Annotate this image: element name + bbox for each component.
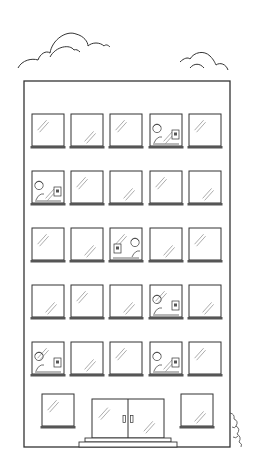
window: [109, 285, 144, 320]
window: [70, 342, 105, 377]
window: [109, 171, 144, 206]
window-occupied: [149, 342, 184, 377]
building-illustration: [0, 0, 255, 474]
window-sill: [109, 203, 144, 206]
window-sill: [149, 146, 184, 149]
cloud-left-inner: [50, 47, 80, 57]
window-sill: [109, 146, 144, 149]
window: [41, 394, 76, 429]
window-occupied: [31, 171, 66, 206]
entrance-step: [85, 438, 171, 442]
window-sill: [149, 317, 184, 320]
clouds: [18, 33, 228, 70]
window: [31, 285, 66, 320]
window: [70, 171, 105, 206]
window-sill: [188, 317, 223, 320]
window-sill: [31, 203, 66, 206]
window-sill: [31, 374, 66, 377]
window-sill: [70, 203, 105, 206]
window-sill: [188, 260, 223, 263]
window-sill: [188, 374, 223, 377]
window-occupied: [149, 285, 184, 320]
window-sill: [70, 317, 105, 320]
window: [149, 228, 184, 263]
window-sill: [180, 426, 215, 429]
window: [188, 342, 223, 377]
window: [70, 114, 105, 149]
window-sill: [31, 146, 66, 149]
window-sill: [188, 146, 223, 149]
window-sill: [149, 260, 184, 263]
entrance-door: [92, 399, 164, 438]
window-sill: [41, 426, 76, 429]
window: [70, 285, 105, 320]
window-occupied: [149, 114, 184, 149]
window-sill: [31, 317, 66, 320]
bush-icon: [230, 413, 242, 447]
window-sill: [70, 146, 105, 149]
window: [31, 228, 66, 263]
window-sill: [109, 260, 144, 263]
window-sill: [149, 203, 184, 206]
window: [188, 171, 223, 206]
cloud-right-inner: [190, 64, 204, 68]
window-sill: [109, 374, 144, 377]
window-occupied: [31, 342, 66, 377]
window: [188, 228, 223, 263]
window: [188, 114, 223, 149]
window: [109, 342, 144, 377]
cloud-left: [18, 33, 110, 68]
window-sill: [70, 260, 105, 263]
window: [109, 114, 144, 149]
window: [180, 394, 215, 429]
window: [188, 285, 223, 320]
window-sill: [70, 374, 105, 377]
window-occupied: [109, 228, 144, 263]
window-sill: [31, 260, 66, 263]
window-sill: [188, 203, 223, 206]
window-sill: [109, 317, 144, 320]
entrance-step: [79, 442, 177, 447]
window: [149, 171, 184, 206]
window: [70, 228, 105, 263]
window-sill: [149, 374, 184, 377]
window: [31, 114, 66, 149]
